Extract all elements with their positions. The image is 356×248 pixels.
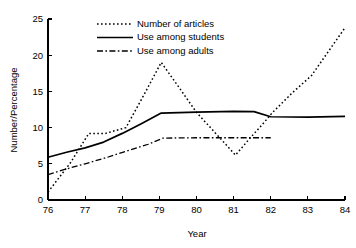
y-tick-label: 10 (32, 122, 43, 133)
y-tick-label: 15 (32, 86, 43, 97)
series-line-3 (48, 138, 271, 175)
line-chart-figure: 0510152025767778798081828384 Number of a… (0, 0, 356, 248)
legend-label-2: Use among students (137, 31, 224, 42)
x-tick-label: 80 (191, 204, 202, 215)
x-tick-label: 83 (303, 204, 314, 215)
chart-canvas: 0510152025767778798081828384 Number of a… (0, 0, 356, 248)
x-tick-label: 82 (265, 204, 276, 215)
y-axis-title: Number/Percentage (8, 67, 19, 152)
x-tick-label: 78 (117, 204, 128, 215)
y-tick-label: 25 (32, 13, 43, 24)
x-tick-label: 84 (340, 204, 351, 215)
chart-legend: Number of articlesUse among studentsUse … (97, 18, 224, 56)
legend-label-1: Number of articles (137, 18, 214, 29)
x-axis-title: Year (187, 228, 206, 239)
x-tick-label: 81 (228, 204, 239, 215)
series-line-2 (48, 111, 345, 157)
y-tick-label: 20 (32, 50, 43, 61)
y-tick-label: 5 (38, 158, 43, 169)
x-tick-label: 79 (154, 204, 165, 215)
x-tick-label: 76 (43, 204, 54, 215)
legend-label-3: Use among adults (137, 45, 214, 56)
x-tick-label: 77 (80, 204, 91, 215)
